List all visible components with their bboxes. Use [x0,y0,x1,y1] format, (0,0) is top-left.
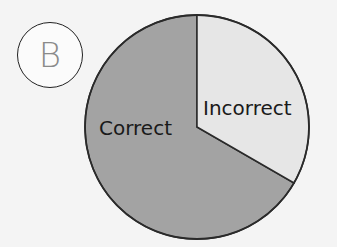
label-correct: Correct [99,116,172,140]
label-incorrect: Incorrect [203,96,292,120]
pie-chart: Incorrect Correct [0,0,337,247]
